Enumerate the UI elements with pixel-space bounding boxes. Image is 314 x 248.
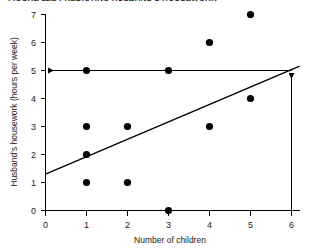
scatter-plot-figure: FIGURE 11.2 PREDICTING HUSBAND'S HOUSEWO… (0, 0, 314, 248)
x-tick-label-2: 2 (125, 220, 130, 230)
y-tick-marks (41, 15, 46, 211)
y-axis-title: Husband's housework (hours per week) (9, 37, 19, 187)
y-tick-label-0: 0 (31, 206, 36, 216)
data-point (83, 151, 90, 158)
x-tick-label-3: 3 (166, 220, 171, 230)
y-tick-label-1: 1 (31, 178, 36, 188)
data-point (206, 123, 213, 130)
y-tick-label-5: 5 (31, 66, 36, 76)
y-tick-label-7: 7 (31, 10, 36, 20)
data-points-group (83, 11, 254, 214)
data-point (247, 11, 254, 18)
x-tick-label-0: 0 (43, 220, 48, 230)
data-point (83, 179, 90, 186)
y-tick-label-2: 2 (31, 150, 36, 160)
x-tick-label-1: 1 (84, 220, 89, 230)
x-tick-label-5: 5 (248, 220, 253, 230)
x-tick-labels: 0 1 2 3 4 5 6 (43, 220, 294, 230)
data-point (83, 67, 90, 74)
data-point (247, 95, 254, 102)
data-point (124, 123, 131, 130)
x-tick-label-4: 4 (207, 220, 212, 230)
data-point (165, 207, 172, 214)
data-point (165, 67, 172, 74)
data-point (124, 179, 131, 186)
prediction-annotations (48, 71, 292, 211)
y-tick-label-4: 4 (31, 94, 36, 104)
regression-line (46, 66, 300, 174)
y-tick-label-3: 3 (31, 122, 36, 132)
plot-canvas: 7 6 5 4 3 2 1 0 0 1 2 3 4 5 6 (0, 0, 314, 248)
data-point (206, 39, 213, 46)
y-tick-label-6: 6 (31, 38, 36, 48)
data-point (83, 123, 90, 130)
x-axis-title: Number of children (134, 235, 206, 245)
x-tick-label-6: 6 (289, 220, 294, 230)
y-tick-labels: 7 6 5 4 3 2 1 0 (31, 10, 36, 216)
